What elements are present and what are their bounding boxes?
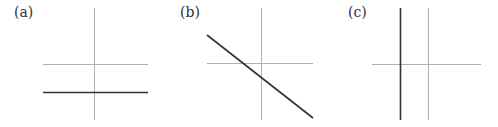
panel-b-plot: [166, 0, 332, 127]
panel-c: (c): [332, 0, 498, 127]
panel-c-plot: [332, 0, 498, 127]
panel-b: (b): [166, 0, 332, 127]
panel-a: (a): [0, 0, 166, 127]
panel-a-plot: [0, 0, 166, 127]
sloped-line: [207, 35, 313, 118]
